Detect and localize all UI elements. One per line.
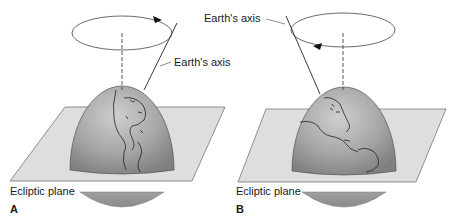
panel-letter-a: A [10,204,18,215]
globe-upper-hemisphere [70,86,174,174]
ecliptic-plane-label-a: Ecliptic plane [10,186,75,197]
globe-upper-hemisphere [292,87,396,175]
panel-b [238,13,446,207]
panel-letter-b: B [236,204,244,215]
panel-a [10,16,225,207]
axis-label-leader [266,19,285,24]
axis-label-b: Earth's axis [204,13,261,24]
axis-label-a: Earth's axis [174,57,231,68]
globe-lower-half [302,192,386,207]
earth-axis-line [144,23,177,90]
axis-label-leader [160,62,171,66]
earth-axis-line [286,16,320,94]
globe-lower-half [80,192,164,207]
ecliptic-plane-label-b: Ecliptic plane [236,186,301,197]
